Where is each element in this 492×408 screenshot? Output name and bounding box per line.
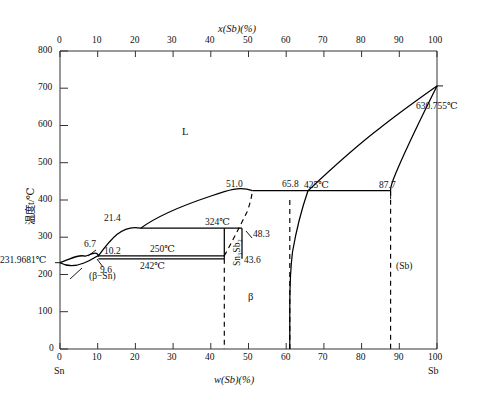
x-tick-bottom-100: 100: [428, 353, 442, 363]
composition-label-87-7: 87.7: [379, 181, 396, 191]
x-tick-top-50: 50: [243, 36, 253, 46]
region-label-beta: β: [248, 292, 253, 303]
compound-label-sn3sb2: Sn₃Sb₂: [233, 239, 243, 266]
temperature-label-425: 425℃: [304, 181, 329, 191]
y-tick-600: 600: [38, 120, 52, 130]
x-tick-top-10: 10: [92, 36, 102, 46]
component-label-sb: Sb: [428, 366, 439, 376]
x-tick-bottom-10: 10: [92, 353, 102, 363]
y-tick-700: 700: [38, 83, 52, 93]
x-tick-bottom-50: 50: [243, 353, 253, 363]
melting-point-sn-label: 231.9681℃: [0, 256, 46, 266]
y-tick-800: 800: [38, 46, 52, 56]
x-tick-top-90: 90: [394, 36, 404, 46]
x-tick-bottom-70: 70: [318, 353, 328, 363]
x-tick-top-80: 80: [356, 36, 366, 46]
composition-label-6-7: 6.7: [84, 240, 96, 250]
composition-label-10-2: 10.2: [104, 247, 121, 257]
phase-diagram-figure: x(Sb)(%) w(Sb)(%) 温度t/℃ 0 10 20 30 40 50…: [0, 0, 492, 408]
composition-label-9-6: 9.6: [100, 266, 112, 276]
x-tick-bottom-0: 0: [57, 353, 62, 363]
composition-label-21-4: 21.4: [104, 214, 121, 224]
y-ticks-left: [60, 51, 68, 349]
composition-label-65-8: 65.8: [282, 180, 299, 190]
composition-label-51-0: 51.0: [226, 180, 243, 190]
x-tick-bottom-40: 40: [205, 353, 215, 363]
region-label-liquid: L: [182, 127, 188, 138]
x-tick-top-60: 60: [281, 36, 291, 46]
temperature-label-324: 324℃: [205, 218, 230, 228]
beta-right-solidus-curve: [290, 191, 308, 349]
top-axis-title: x(Sb)(%): [218, 24, 256, 35]
plot-frame: [60, 51, 437, 349]
x-ticks-bottom: [60, 343, 437, 349]
y-tick-0: 0: [49, 344, 54, 354]
x-tick-bottom-20: 20: [130, 353, 140, 363]
x-tick-top-0: 0: [57, 36, 62, 46]
y-tick-500: 500: [38, 158, 52, 168]
x-ticks-top: [60, 51, 437, 57]
temperature-label-242: 242℃: [140, 262, 165, 272]
x-tick-top-70: 70: [318, 36, 328, 46]
y-tick-400: 400: [38, 195, 52, 205]
y-tick-100: 100: [38, 307, 52, 317]
x-tick-top-30: 30: [167, 36, 177, 46]
x-tick-bottom-80: 80: [356, 353, 366, 363]
region-label-sb: (Sb): [396, 262, 412, 272]
x-tick-bottom-30: 30: [167, 353, 177, 363]
composition-label-48-3: 48.3: [253, 230, 270, 240]
composition-label-43-6: 43.6: [244, 256, 261, 266]
y-tick-300: 300: [38, 232, 52, 242]
leader-48-3: [246, 231, 252, 238]
x-tick-bottom-60: 60: [281, 353, 291, 363]
temperature-label-250: 250℃: [150, 245, 175, 255]
x-tick-top-40: 40: [205, 36, 215, 46]
left-axis-title: 温度t/℃: [26, 187, 37, 225]
x-tick-top-20: 20: [130, 36, 140, 46]
dashed-boundaries: [224, 191, 390, 349]
component-label-sn: Sn: [54, 366, 65, 376]
y-tick-200: 200: [38, 270, 52, 280]
phase-diagram-canvas: [0, 0, 492, 408]
invariant-isotherms: [98, 191, 390, 259]
x-tick-bottom-90: 90: [394, 353, 404, 363]
x-tick-top-100: 100: [428, 36, 442, 46]
leader-beta-sn: [70, 268, 82, 279]
melting-point-sb-label: 630.755℃: [416, 102, 458, 112]
bottom-axis-title: w(Sb)(%): [214, 375, 254, 386]
